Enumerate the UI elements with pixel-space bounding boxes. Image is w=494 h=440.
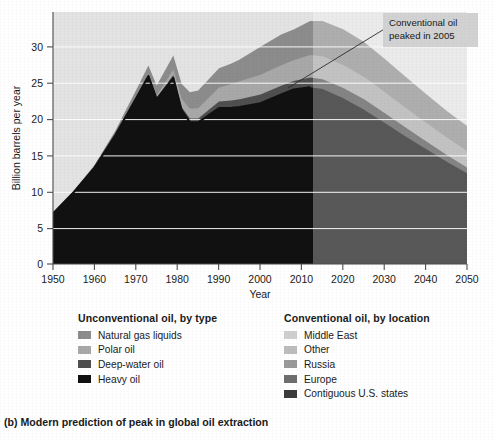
legend-label-heavy-oil: Heavy oil (98, 374, 140, 385)
legend-swatch-natural-gas-liquids (78, 331, 91, 339)
legend-item-europe[interactable]: Europe (284, 372, 430, 387)
x-tick-label-1990: 1990 (207, 273, 231, 285)
y-tick-label-25: 25 (31, 77, 43, 89)
legend-label-europe: Europe (304, 374, 337, 385)
x-tick-label-2010: 2010 (290, 273, 314, 285)
y-tick-label-0: 0 (37, 258, 43, 270)
legend-swatch-europe (284, 375, 297, 383)
y-tick-label-5: 5 (37, 222, 43, 234)
legend-unconventional-title: Unconventional oil, by type (78, 312, 217, 324)
x-tick-label-1980: 1980 (166, 273, 190, 285)
figure-panel: 0 5 10 15 20 25 30 1950 1960 1970 1980 1… (0, 0, 494, 440)
y-tick-label-20: 20 (31, 113, 43, 125)
legend-item-middle-east[interactable]: Middle East (284, 328, 430, 343)
legend-label-natural-gas-liquids: Natural gas liquids (98, 330, 182, 341)
legend-conventional-title: Conventional oil, by location (284, 312, 430, 324)
legend-swatch-russia (284, 360, 297, 368)
legend-label-other: Other (304, 344, 329, 355)
y-tick-label-30: 30 (31, 41, 43, 53)
legend-item-natural-gas-liquids[interactable]: Natural gas liquids (78, 328, 217, 343)
legend-unconventional: Unconventional oil, by type Natural gas … (78, 312, 217, 386)
x-tick-label-2000: 2000 (248, 273, 272, 285)
legend-label-contiguous-us-states: Contiguous U.S. states (304, 388, 408, 399)
legend-item-polar-oil[interactable]: Polar oil (78, 343, 217, 358)
legend-item-heavy-oil[interactable]: Heavy oil (78, 372, 217, 387)
legend-label-middle-east: Middle East (304, 330, 357, 341)
legend-swatch-heavy-oil (78, 375, 91, 383)
legend-label-polar-oil: Polar oil (98, 344, 135, 355)
x-ticks: 1950 1960 1970 1980 1990 2000 2010 2020 … (41, 264, 479, 285)
x-tick-label-2020: 2020 (331, 273, 355, 285)
figure-caption: (b) Modern prediction of peak in global … (4, 416, 268, 428)
y-ticks: 0 5 10 15 20 25 30 (31, 41, 53, 270)
legend-item-other[interactable]: Other (284, 343, 430, 358)
legend-item-deep-water-oil[interactable]: Deep-water oil (78, 357, 217, 372)
x-tick-label-2040: 2040 (414, 273, 438, 285)
legend-swatch-polar-oil (78, 346, 91, 354)
x-axis-title: Year (249, 288, 271, 300)
y-axis-title: Billion barrels per year (10, 85, 22, 190)
legend-conventional: Conventional oil, by location Middle Eas… (284, 312, 430, 401)
x-tick-label-1950: 1950 (41, 273, 65, 285)
x-tick-label-1960: 1960 (83, 273, 107, 285)
annotation-line-2: peaked in 2005 (389, 30, 455, 41)
legend-item-russia[interactable]: Russia (284, 357, 430, 372)
legend-swatch-other (284, 346, 297, 354)
legend-swatch-middle-east (284, 331, 297, 339)
forecast-region-overlay (313, 12, 467, 264)
y-tick-label-15: 15 (31, 150, 43, 162)
legend-swatch-contiguous-us-states (284, 390, 297, 398)
legend-item-contiguous-us-states[interactable]: Contiguous U.S. states (284, 386, 430, 401)
x-tick-label-2050: 2050 (455, 273, 479, 285)
legend-label-russia: Russia (304, 359, 335, 370)
x-tick-label-2030: 2030 (373, 273, 397, 285)
x-tick-label-1970: 1970 (124, 273, 148, 285)
annotation-line-1: Conventional oil (389, 17, 457, 28)
y-tick-label-10: 10 (31, 186, 43, 198)
legend-swatch-deep-water-oil (78, 360, 91, 368)
legend-label-deep-water-oil: Deep-water oil (98, 359, 164, 370)
